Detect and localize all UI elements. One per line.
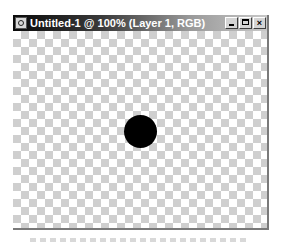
maximize-button[interactable] — [239, 17, 252, 29]
window-controls: × — [224, 17, 266, 29]
title-bar[interactable]: Untitled-1 @ 100% (Layer 1, RGB) × — [13, 15, 267, 31]
document-canvas[interactable] — [13, 31, 267, 228]
cropped-text-fragment — [30, 238, 250, 242]
photoshop-document-icon[interactable] — [15, 17, 27, 29]
black-circle-shape[interactable] — [124, 115, 157, 148]
close-button[interactable]: × — [253, 17, 266, 29]
document-window: Untitled-1 @ 100% (Layer 1, RGB) × — [13, 15, 269, 230]
minimize-button[interactable] — [225, 17, 238, 29]
window-title: Untitled-1 @ 100% (Layer 1, RGB) — [30, 17, 205, 29]
close-icon: × — [257, 18, 262, 28]
